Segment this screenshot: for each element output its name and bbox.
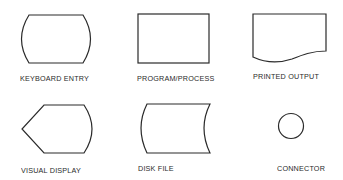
visual-display-label: VISUAL DISPLAY — [21, 166, 81, 175]
disk-file-shape — [141, 104, 210, 153]
keyboard-entry-label: KEYBOARD ENTRY — [20, 74, 89, 83]
flowchart-symbols-canvas — [0, 0, 343, 180]
program-process-label: PROGRAM/PROCESS — [137, 74, 214, 83]
disk-file-label: DISK FILE — [138, 164, 174, 173]
connector-label: CONNECTOR — [277, 164, 325, 173]
printed-output-label: PRINTED OUTPUT — [253, 72, 319, 81]
keyboard-entry-shape — [22, 15, 91, 63]
connector-shape — [279, 114, 304, 139]
visual-display-shape — [22, 105, 92, 153]
program-process-shape — [138, 14, 209, 63]
printed-output-shape — [253, 14, 326, 62]
